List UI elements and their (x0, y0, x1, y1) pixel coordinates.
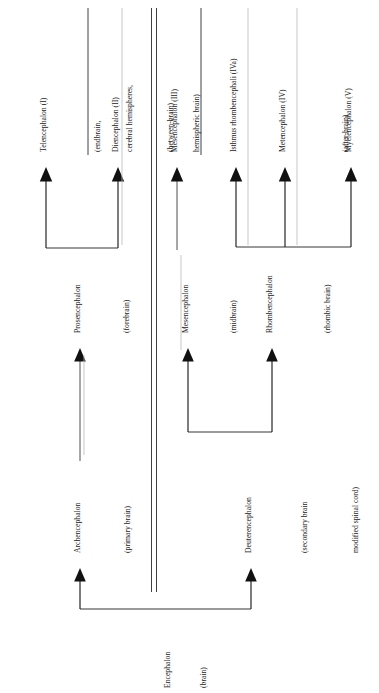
diagram-connectors (0, 0, 379, 693)
arrowhead-isthmus (230, 167, 242, 182)
arrowhead-deuterencephalon (245, 568, 257, 582)
edge-encephalon-split (80, 580, 251, 609)
arrowhead-mesencephalon-mid (182, 348, 194, 362)
arrowhead-metencephalon (279, 167, 291, 182)
arrowhead-rhombencephalon (266, 348, 278, 362)
arrowhead-telencephalon (40, 167, 52, 182)
edge-rhombencephalon-split (236, 180, 351, 247)
edge-prosencephalon-split (46, 180, 118, 248)
brain-subdivision-diagram: Telencephalon (I) (endbrain, cerebral he… (0, 0, 379, 693)
vertical-divider-rule (152, 8, 157, 592)
label-separator-rules (84, 8, 297, 455)
edge-deuterencephalon-split (188, 360, 272, 432)
arrowhead-myelencephalon (345, 167, 357, 182)
arrowhead-mesencephalon-iii (171, 167, 183, 182)
arrowhead-archencephalon (74, 568, 86, 582)
